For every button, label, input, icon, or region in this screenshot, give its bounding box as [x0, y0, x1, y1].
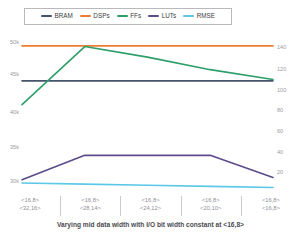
right-axis-tick: 60 — [277, 129, 283, 135]
right-axis-tick: 120 — [277, 67, 286, 73]
line-swatch-icon — [148, 15, 159, 17]
right-axis-tick: 80 — [277, 108, 283, 114]
x-category: <16,8> <32,16> — [0, 196, 60, 220]
legend-item-dsps[interactable]: DSPs — [80, 13, 110, 19]
left-axis-tick: 50k — [10, 40, 19, 46]
line-swatch-icon — [183, 15, 194, 17]
chart-legend: BRAM DSPs FFs LUTs RMSE — [24, 8, 232, 25]
legend-label: RMSE — [197, 13, 215, 19]
x-category: <16,8> <28,14> — [60, 196, 120, 220]
legend-label: BRAM — [54, 13, 72, 19]
x-category-line1: <16,8> — [262, 198, 280, 204]
x-category-line2: <20,10> — [200, 206, 221, 212]
line-swatch-icon — [41, 15, 52, 17]
left-axis-tick: 40k — [10, 110, 19, 116]
legend-label: LUTs — [162, 13, 177, 19]
x-category-line1: <16,8> — [81, 198, 99, 204]
x-category: <16,8> <24,12> — [120, 196, 180, 220]
left-axis-tick: 45k — [10, 72, 19, 78]
legend-item-rmse[interactable]: RMSE — [183, 13, 215, 19]
x-category-line2: <32,16> — [19, 206, 40, 212]
x-category: <16,8> <16,8> — [241, 196, 301, 220]
series-line-ffs — [22, 47, 273, 105]
plot-area — [22, 38, 273, 193]
x-category-line2: <24,12> — [140, 206, 161, 212]
series-line-luts — [22, 155, 273, 179]
legend-item-ffs[interactable]: FFs — [117, 13, 142, 19]
legend-label: FFs — [130, 13, 141, 19]
right-axis-tick: 140 — [277, 45, 286, 51]
left-axis-tick: 30k — [10, 179, 19, 185]
series-line-rmse — [22, 183, 273, 187]
x-category: <16,8> <20,10> — [181, 196, 241, 220]
legend-item-bram[interactable]: BRAM — [41, 13, 73, 19]
x-category-line2: <16,8> — [262, 206, 280, 212]
line-swatch-icon — [80, 15, 91, 17]
x-category-line2: <28,14> — [80, 206, 101, 212]
x-axis-categories: <16,8> <32,16> <16,8> <28,14> <16,8> <24… — [0, 196, 301, 220]
line-swatch-icon — [117, 15, 128, 17]
series-canvas — [22, 38, 273, 193]
legend-label: DSPs — [93, 13, 109, 19]
chart-root: BRAM DSPs FFs LUTs RMSE 50k 45k 40k 35k … — [0, 0, 301, 240]
x-category-line1: <16,8> — [21, 198, 39, 204]
right-axis-tick: 100 — [277, 88, 286, 94]
x-category-line1: <16,8> — [141, 198, 159, 204]
right-axis-tick: 40 — [277, 150, 283, 156]
left-axis-tick: 35k — [10, 145, 19, 151]
legend-item-luts[interactable]: LUTs — [148, 13, 176, 19]
x-axis-title: Varying mid data width with I/O bit widt… — [0, 221, 301, 228]
right-axis-tick: 20 — [277, 170, 283, 176]
x-category-line1: <16,8> — [202, 198, 220, 204]
